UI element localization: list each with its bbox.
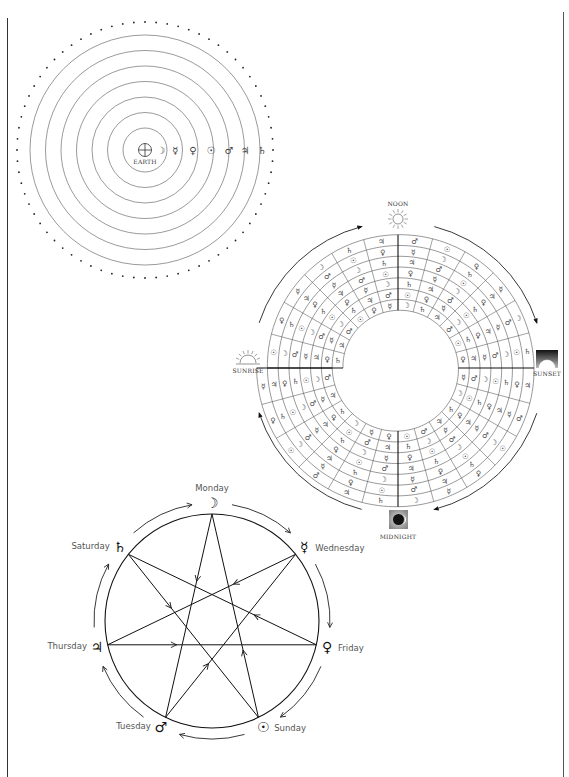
hour-symbol-icon: ♄ bbox=[405, 442, 412, 451]
moon-symbol-icon: ☽ bbox=[157, 145, 166, 156]
tuesday-planet-icon: ♂ bbox=[155, 719, 168, 735]
hour-symbol-icon: ☿ bbox=[387, 302, 392, 311]
star-dot bbox=[272, 160, 274, 162]
outer-cycle-arrow-icon bbox=[94, 564, 109, 627]
weekday-heptagram-diagram: ☽Monday☿Wednesday♀Friday☉Sunday♂Tuesday♃… bbox=[46, 483, 364, 739]
hour-symbol-icon: ♄ bbox=[476, 398, 483, 407]
star-dot bbox=[18, 171, 20, 173]
star-dot bbox=[144, 21, 146, 23]
planetary-hours-wheel: ☉♀☿☽♄♃♂☉♀☿☽♄♃♂☉♀☿☽♄♃♂☉♀☿☽♄♃♂☉♀☿☽♄♃♂☉♀☿☽♄… bbox=[232, 200, 561, 540]
heptagram-edge bbox=[108, 554, 296, 645]
star-dot bbox=[122, 275, 124, 277]
weekday-node-friday: ♀Friday bbox=[320, 639, 364, 655]
star-dot bbox=[177, 273, 179, 275]
star-dot bbox=[90, 33, 92, 35]
hour-symbol-icon: ♂ bbox=[318, 332, 325, 341]
hour-symbol-icon: ♄ bbox=[472, 305, 479, 314]
star-dot bbox=[33, 85, 35, 87]
hour-symbol-icon: ☽ bbox=[491, 438, 498, 447]
hour-symbol-icon: ☽ bbox=[440, 255, 447, 264]
hour-symbol-icon: ♂ bbox=[385, 291, 392, 300]
sunset-icon bbox=[536, 350, 558, 368]
hour-symbol-icon: ♂ bbox=[505, 318, 512, 327]
hour-symbol-icon: ♀ bbox=[333, 445, 339, 454]
star-dot bbox=[268, 182, 270, 184]
hour-symbol-icon: ♄ bbox=[419, 305, 426, 314]
weekday-node-tuesday: ♂Tuesday bbox=[115, 719, 168, 735]
hour-symbol-icon: ♂ bbox=[324, 373, 331, 382]
outer-cycle-arrow-icon bbox=[232, 505, 291, 533]
hour-symbol-icon: ☽ bbox=[403, 301, 410, 310]
noon-label: NOON bbox=[387, 200, 408, 207]
hour-symbol-icon: ♂ bbox=[421, 427, 428, 436]
hour-symbol-icon: ♄ bbox=[292, 377, 299, 386]
hour-symbol-icon: ☿ bbox=[446, 487, 451, 496]
hour-symbol-icon: ♃ bbox=[343, 488, 350, 497]
star-dot bbox=[46, 67, 48, 69]
hour-symbol-icon: ☿ bbox=[410, 475, 415, 484]
hour-symbol-icon: ♀ bbox=[407, 453, 413, 462]
weekday-node-wednesday: ☿Wednesday bbox=[297, 539, 364, 555]
star-dot bbox=[249, 76, 251, 78]
hour-symbol-icon: ♀ bbox=[371, 306, 377, 315]
hour-symbol-icon: ♄ bbox=[465, 335, 472, 344]
hour-symbol-icon: ☉ bbox=[288, 446, 295, 455]
star-dot bbox=[54, 59, 56, 61]
outer-cycle-arrows bbox=[94, 505, 330, 739]
star-dot bbox=[218, 44, 220, 46]
hour-symbol-icon: ☉ bbox=[404, 291, 411, 300]
hour-symbol-icon: ♃ bbox=[496, 406, 503, 415]
star-dot bbox=[270, 127, 272, 129]
star-dot bbox=[39, 76, 41, 78]
star-dot bbox=[122, 23, 124, 25]
hour-symbol-icon: ☉ bbox=[357, 315, 364, 324]
hour-symbol-icon: ♃ bbox=[271, 380, 278, 389]
hour-symbol-icon: ☽ bbox=[296, 440, 303, 449]
star-dot bbox=[62, 247, 64, 249]
hour-symbol-icon: ♃ bbox=[326, 454, 333, 463]
hour-symbol-icon: ♃ bbox=[441, 477, 448, 486]
saturday-planet-icon: ♄ bbox=[113, 539, 126, 555]
hour-symbol-icon: ♃ bbox=[436, 417, 443, 426]
star-dot bbox=[28, 95, 30, 97]
star-dot bbox=[270, 171, 272, 173]
star-dot bbox=[100, 29, 102, 31]
hour-symbol-icon: ♄ bbox=[448, 405, 455, 414]
hour-symbol-icon: ☿ bbox=[369, 428, 374, 437]
hour-symbol-icon: ♄ bbox=[320, 307, 327, 316]
star-dot bbox=[111, 25, 113, 27]
geocentric-spheres-diagram: EARTH ☽☿♀☉♂♃♄ bbox=[16, 21, 274, 279]
figure-canvas: EARTH ☽☿♀☉♂♃♄ ☉♀☿☽♄♃♂☉♀☿☽♄♃♂☉♀☿☽♄♃♂☉♀☿☽♄… bbox=[0, 0, 569, 777]
hour-symbol-icon: ☽ bbox=[425, 437, 432, 446]
clockwise-arrow-icon bbox=[434, 227, 537, 323]
hour-symbol-icon: ☽ bbox=[515, 314, 522, 323]
hour-symbol-icon: ♂ bbox=[305, 433, 312, 442]
hour-symbol-icon: ☽ bbox=[300, 403, 307, 412]
hour-symbol-icon: ♂ bbox=[446, 325, 453, 334]
outer-cycle-arrow-icon bbox=[180, 734, 245, 739]
hour-symbol-icon: ♂ bbox=[471, 374, 478, 383]
hour-symbol-icon: ♀ bbox=[514, 380, 520, 389]
outer-cycle-arrow-icon bbox=[103, 666, 143, 717]
hour-symbol-icon: ♀ bbox=[474, 262, 480, 271]
hour-symbol-icon: ♃ bbox=[378, 237, 385, 246]
hour-symbol-icon: ♄ bbox=[381, 259, 388, 268]
hour-symbol-icon: ♂ bbox=[411, 237, 418, 246]
hour-symbol-icon: ☉ bbox=[463, 311, 470, 320]
star-dot bbox=[62, 51, 64, 53]
sunday-planet-icon: ☉ bbox=[257, 719, 270, 735]
hour-symbol-icon: ☽ bbox=[308, 328, 315, 337]
hour-symbol-icon: ☽ bbox=[314, 375, 321, 384]
hour-symbol-icon: ♃ bbox=[322, 420, 329, 429]
hour-symbol-icon: ♃ bbox=[408, 464, 415, 473]
hour-symbol-icon: ♀ bbox=[424, 295, 430, 304]
hour-symbol-icon: ☽ bbox=[453, 287, 460, 296]
sun-symbol-icon: ☉ bbox=[207, 145, 216, 156]
hour-symbol-icon: ♀ bbox=[331, 413, 337, 422]
star-dot bbox=[100, 269, 102, 271]
hour-symbol-icon: ♄ bbox=[467, 270, 474, 279]
sunrise-label: SUNRISE bbox=[232, 367, 263, 374]
hour-symbol-icon: ☽ bbox=[354, 266, 361, 275]
star-dot bbox=[33, 213, 35, 215]
hour-symbol-icon: ☽ bbox=[482, 375, 489, 384]
